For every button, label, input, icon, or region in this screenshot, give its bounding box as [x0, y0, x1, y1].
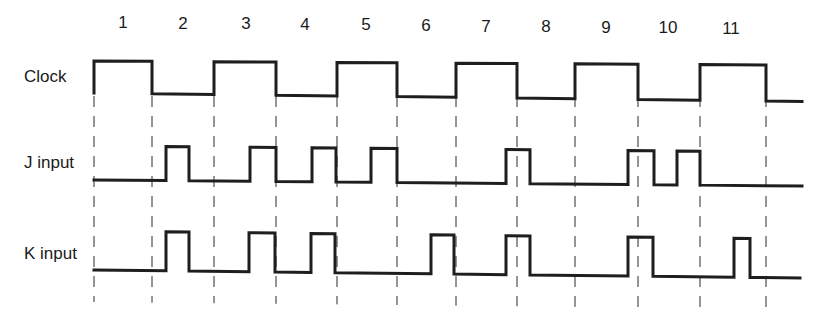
signal-labels: Clock J input K input: [24, 67, 77, 263]
k-input-label: K input: [24, 244, 77, 263]
period-label: 5: [361, 15, 370, 34]
clock-period-labels: 1234567891011: [118, 13, 740, 38]
period-label: 8: [541, 17, 550, 36]
period-label: 1: [118, 13, 127, 32]
j-input-label: J input: [24, 153, 74, 172]
timing-diagram: 1234567891011 Clock J input K input: [0, 0, 832, 325]
period-label: 3: [241, 14, 250, 33]
period-label: 4: [300, 15, 309, 34]
period-label: 11: [722, 19, 740, 38]
k-input-waveform: [94, 232, 800, 278]
period-label: 2: [178, 14, 187, 33]
j-input-waveform: [94, 147, 802, 186]
period-label: 9: [601, 18, 610, 37]
clock-label: Clock: [24, 67, 67, 86]
period-label: 10: [659, 18, 678, 37]
period-label: 7: [481, 17, 490, 36]
period-label: 6: [421, 16, 430, 35]
clock-waveform: [94, 61, 802, 101]
